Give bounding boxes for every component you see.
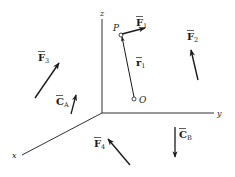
vector-f3-label: F3 [38, 52, 49, 66]
vector-f1-label: F1 [136, 17, 147, 31]
vector-f1-arrow [122, 28, 145, 34]
y-axis-label: y [216, 109, 222, 118]
vector-ca-label: CA [56, 96, 69, 110]
x-axis-label: x [12, 151, 17, 160]
z-axis-label: z [99, 9, 105, 18]
vector-f4-label: F4 [94, 138, 105, 152]
point-o-marker [132, 97, 136, 101]
vector-f3-arrow [35, 63, 59, 98]
f3-symbol: F [38, 52, 45, 63]
svg-text:CA: CA [56, 96, 69, 109]
svg-text:F1: F1 [136, 17, 147, 30]
svg-text:F2: F2 [187, 31, 198, 44]
x-axis [22, 113, 102, 155]
point-o-label: O [139, 95, 147, 105]
svg-text:CB: CB [179, 129, 192, 142]
ca-symbol: C [56, 96, 64, 107]
svg-text:F4: F4 [94, 138, 105, 151]
f4-symbol: F [94, 138, 101, 149]
vector-ca-arrow [71, 95, 76, 114]
svg-text:F3: F3 [38, 52, 49, 65]
vector-f2-label: F2 [187, 31, 198, 45]
point-p-label: P [112, 23, 120, 33]
vector-cb-label: CB [179, 129, 192, 143]
cb-symbol: C [179, 129, 187, 140]
vector-r1-label: r1 [136, 57, 145, 70]
vector-f4-arrow [108, 139, 130, 165]
f2-symbol: F [187, 31, 194, 42]
f1-symbol: F [136, 17, 143, 28]
vector-r1-arrow [122, 37, 134, 97]
force-system-diagram: z y x r1 O P F1 F2 F3 CA F4 CB [0, 0, 235, 177]
vector-f2-arrow [191, 50, 198, 80]
svg-text:r1: r1 [136, 57, 145, 70]
